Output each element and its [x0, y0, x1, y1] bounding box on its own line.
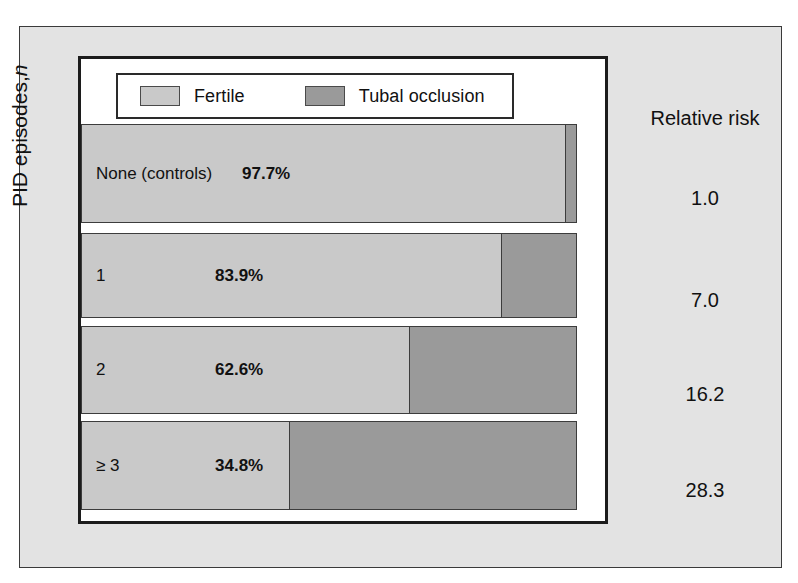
bar-row: 183.9% — [81, 233, 577, 318]
legend-item-tubal-occlusion[interactable]: Tubal occlusion — [305, 86, 485, 107]
legend-swatch-tubal-occlusion — [305, 86, 345, 106]
figure-root: PID episodes,n Fertile Tubal occlusion N… — [0, 0, 798, 583]
bar-row: ≥ 334.8% — [81, 421, 577, 510]
relative-risk-header: Relative risk — [620, 107, 790, 130]
bar-segment-fertile: None (controls)97.7% — [81, 124, 566, 223]
relative-risk-value: 1.0 — [620, 187, 790, 210]
bars-container: None (controls)97.7%183.9%262.6%≥ 334.8% — [81, 124, 605, 522]
relative-risk-column: Relative risk 1.07.016.228.3 — [620, 82, 790, 542]
chart-legend: Fertile Tubal occlusion — [116, 73, 514, 119]
legend-label-tubal-occlusion: Tubal occlusion — [359, 86, 485, 107]
bar-value-label: 34.8% — [215, 456, 263, 476]
y-axis-title-text: PID episodes, — [8, 76, 31, 207]
bar-segment-tubal-occlusion — [565, 124, 577, 223]
legend-swatch-fertile — [140, 86, 180, 106]
bar-segment-fertile: ≥ 334.8% — [81, 421, 290, 510]
bar-category-label: 1 — [96, 266, 105, 286]
bar-segment-fertile: 183.9% — [81, 233, 502, 318]
legend-label-fertile: Fertile — [194, 86, 245, 107]
bar-value-label: 83.9% — [215, 266, 263, 286]
relative-risk-value: 16.2 — [620, 383, 790, 406]
legend-item-fertile[interactable]: Fertile — [140, 86, 245, 107]
bar-segment-tubal-occlusion — [409, 326, 577, 414]
bar-category-label: ≥ 3 — [96, 456, 120, 476]
bar-value-label: 62.6% — [215, 360, 263, 380]
relative-risk-value: 28.3 — [620, 479, 790, 502]
bar-category-label: 2 — [96, 360, 105, 380]
outer-panel: PID episodes,n Fertile Tubal occlusion N… — [19, 26, 782, 568]
plot-frame: Fertile Tubal occlusion None (controls)9… — [78, 56, 608, 524]
bar-category-label: None (controls) — [96, 164, 212, 184]
relative-risk-value: 7.0 — [620, 289, 790, 312]
bar-row: 262.6% — [81, 326, 577, 414]
bar-segment-tubal-occlusion — [501, 233, 577, 318]
bar-row: None (controls)97.7% — [81, 124, 577, 223]
y-axis-title: PID episodes,n — [8, 65, 32, 207]
bar-value-label: 97.7% — [242, 164, 290, 184]
y-axis-title-italic: n — [8, 65, 31, 77]
bar-segment-tubal-occlusion — [289, 421, 577, 510]
bar-segment-fertile: 262.6% — [81, 326, 410, 414]
